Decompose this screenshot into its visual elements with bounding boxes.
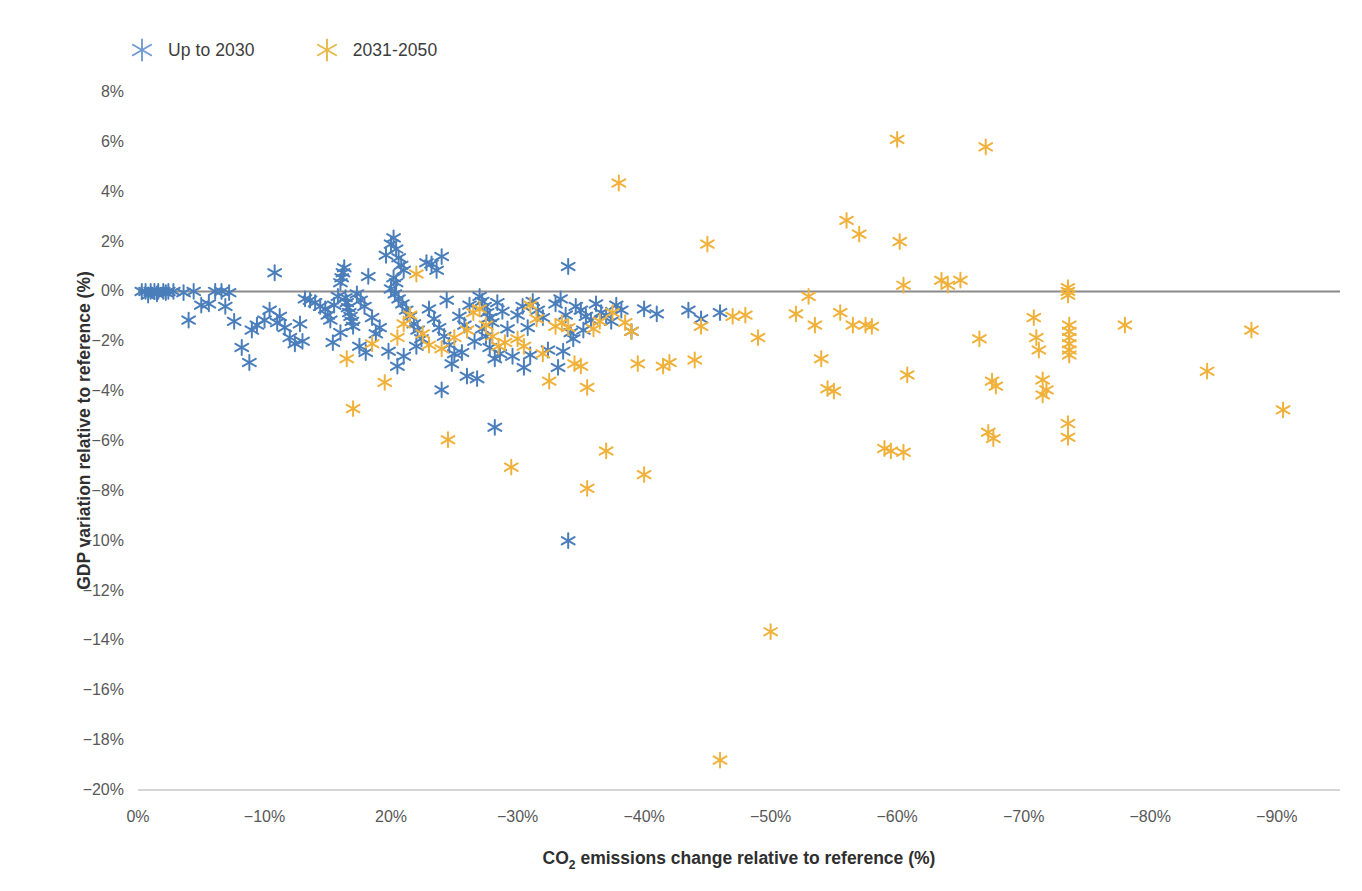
data-point (827, 384, 840, 399)
data-point (1027, 310, 1040, 325)
x-axis-tick-label: −50% (711, 808, 831, 826)
data-point (612, 176, 625, 191)
data-point (442, 432, 455, 447)
x-axis-tick-label: −40% (584, 808, 704, 826)
data-point (764, 624, 777, 639)
data-point (243, 355, 256, 370)
x-axis-tick-label: 0% (78, 808, 198, 826)
scatter-chart: Up to 2030 2031-2050 8%6%4%2%0%−2%−4%−6%… (0, 0, 1362, 891)
data-point (752, 330, 765, 345)
data-point (897, 278, 910, 293)
data-point (410, 267, 423, 282)
data-point (391, 330, 404, 345)
series-2031-2050-points (340, 132, 1289, 768)
data-point (338, 260, 351, 275)
data-point (557, 344, 570, 359)
data-point (445, 356, 458, 371)
data-point (501, 321, 514, 336)
data-point (973, 331, 986, 346)
y-axis-title: GDP variation relative to reference (%) (74, 81, 95, 781)
data-point (362, 269, 375, 284)
data-point (581, 380, 594, 395)
data-point (391, 359, 404, 374)
legend-label-2031-2050: 2031-2050 (353, 40, 438, 61)
data-point (1063, 348, 1076, 363)
data-point (631, 356, 644, 371)
data-point (562, 533, 575, 548)
data-point (219, 299, 232, 314)
data-point (650, 306, 663, 321)
data-point (552, 360, 565, 375)
x-axis-tick-label: −60% (837, 808, 957, 826)
data-point (228, 314, 241, 329)
data-point (378, 375, 391, 390)
x-axis-tick-label: −70% (964, 808, 1084, 826)
data-point (853, 227, 866, 242)
data-point (809, 318, 822, 333)
scatter-plot-canvas (138, 92, 1340, 790)
data-point (1277, 402, 1290, 417)
series-up-to-2030-points (135, 230, 726, 548)
data-point (574, 359, 587, 374)
data-point (397, 349, 410, 364)
x-axis-tick-labels: 0%−10%20%−30%−40%−50%−60%−70%−80%−90% (0, 808, 1362, 834)
data-point (1245, 323, 1258, 338)
data-point (382, 344, 395, 359)
data-point (435, 383, 448, 398)
data-point (846, 318, 859, 333)
y-axis-tick-label: −20% (54, 781, 124, 799)
data-point (505, 460, 518, 475)
data-point (840, 213, 853, 228)
data-point (884, 444, 897, 459)
data-point (1062, 416, 1075, 431)
data-point (182, 313, 195, 328)
data-point (468, 334, 481, 349)
x-axis-tick-label: −30% (458, 808, 578, 826)
data-point (334, 325, 347, 340)
plot-area (138, 92, 1340, 790)
data-point (901, 368, 914, 383)
data-point (638, 467, 651, 482)
data-point (1062, 430, 1075, 445)
data-point (347, 401, 360, 416)
x-axis-title: CO2 emissions change relative to referen… (138, 848, 1340, 872)
data-point (518, 360, 531, 375)
data-point (326, 335, 339, 350)
data-point (891, 132, 904, 147)
x-axis-tick-label: −10% (205, 808, 325, 826)
x-axis-tick-label: 20% (331, 808, 451, 826)
data-point (815, 351, 828, 366)
legend-label-up-to-2030: Up to 2030 (168, 40, 255, 61)
asterisk-six-icon (128, 36, 156, 64)
data-point (714, 305, 727, 320)
data-point (268, 265, 281, 280)
data-point (294, 316, 307, 331)
data-point (506, 349, 519, 364)
x-axis-tick-label: −90% (1217, 808, 1337, 826)
data-point (897, 445, 910, 460)
legend-item-up-to-2030[interactable]: Up to 2030 (128, 36, 255, 64)
data-point (979, 139, 992, 154)
data-point (340, 351, 353, 366)
data-point (440, 293, 453, 308)
data-point (701, 237, 714, 252)
data-point (488, 420, 501, 435)
data-point (518, 339, 531, 354)
data-point (1201, 364, 1214, 379)
x-axis-tick-label: −80% (1090, 808, 1210, 826)
data-point (688, 353, 701, 368)
data-point (511, 331, 524, 346)
data-point (893, 234, 906, 249)
data-point (347, 319, 360, 334)
data-point (954, 273, 967, 288)
legend-item-2031-2050[interactable]: 2031-2050 (313, 36, 438, 64)
data-point (366, 310, 379, 325)
data-point (638, 301, 651, 316)
data-point (1032, 343, 1045, 358)
asterisk-six-icon (313, 36, 341, 64)
data-point (562, 259, 575, 274)
data-point (625, 324, 638, 339)
data-point (790, 306, 803, 321)
data-point (235, 340, 248, 355)
data-point (1030, 330, 1043, 345)
